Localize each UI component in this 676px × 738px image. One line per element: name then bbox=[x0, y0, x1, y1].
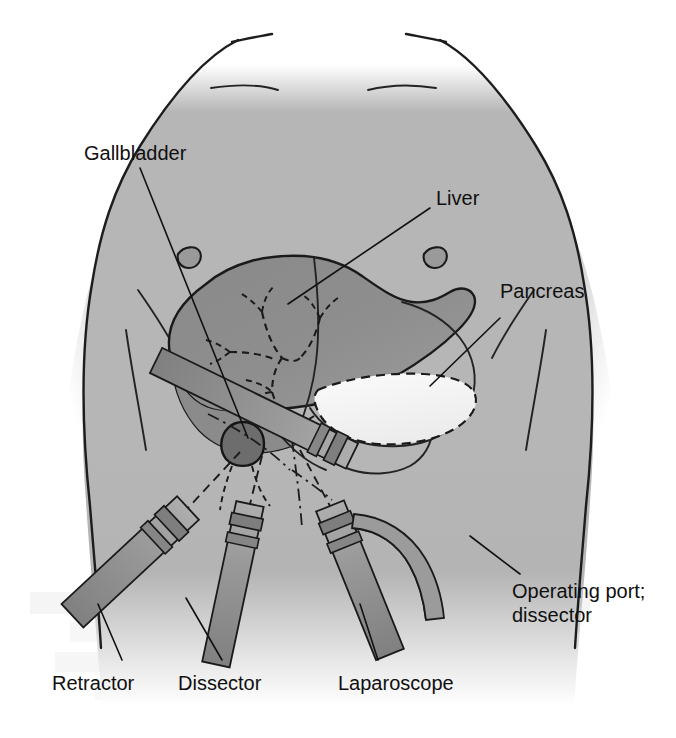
label-laparoscope: Laparoscope bbox=[338, 672, 454, 694]
label-retractor: Retractor bbox=[52, 672, 135, 694]
label-liver: Liver bbox=[436, 187, 480, 209]
figure-container: Gallbladder Liver Pancreas Operating por… bbox=[0, 0, 676, 738]
label-pancreas: Pancreas bbox=[500, 280, 585, 302]
label-operating-port-line2: dissector bbox=[512, 604, 592, 626]
label-gallbladder: Gallbladder bbox=[84, 142, 187, 164]
left-nipple bbox=[178, 247, 201, 268]
label-operating-port-line1: Operating port; bbox=[512, 580, 645, 602]
label-dissector: Dissector bbox=[178, 672, 262, 694]
right-nipple bbox=[424, 247, 447, 268]
anatomical-illustration: Gallbladder Liver Pancreas Operating por… bbox=[0, 0, 676, 738]
